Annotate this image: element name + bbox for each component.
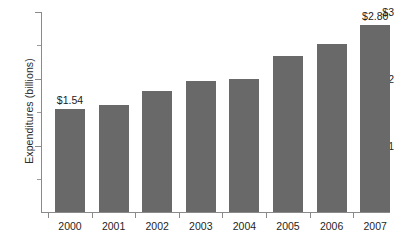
bar-2004[interactable]: [229, 79, 259, 212]
x-axis-tick: [179, 213, 180, 218]
x-axis-tick-label-2003: 2003: [189, 220, 212, 232]
x-axis-tick-label-2007: 2007: [364, 220, 387, 232]
bar-2007[interactable]: [360, 25, 390, 213]
y-axis-major-tick: [35, 79, 41, 80]
y-axis-minor-tick: [37, 45, 41, 46]
x-axis-tick: [310, 213, 311, 218]
x-axis-tick: [92, 213, 93, 218]
x-axis-tick: [48, 213, 49, 218]
x-axis-tick-label-2004: 2004: [233, 220, 256, 232]
x-axis-tick: [222, 213, 223, 218]
y-axis-major-tick: [35, 146, 41, 147]
bar-chart: Expenditures (billions) $1$2$3$1.5420002…: [0, 0, 394, 245]
y-axis-minor-tick: [37, 112, 41, 113]
bar-2006[interactable]: [317, 44, 347, 212]
bar-value-label-2000: $1.54: [57, 94, 83, 106]
x-axis-tick-label-2000: 2000: [58, 220, 81, 232]
y-axis-minor-tick: [37, 179, 41, 180]
bar-2002[interactable]: [142, 91, 172, 212]
bar-2003[interactable]: [186, 81, 216, 212]
bar-2001[interactable]: [99, 105, 129, 212]
x-axis-tick-label-2005: 2005: [276, 220, 299, 232]
bar-2000[interactable]: [55, 109, 85, 212]
x-axis-tick-label-2001: 2001: [102, 220, 125, 232]
y-axis-major-tick: [35, 12, 41, 13]
x-axis-tick-label-2006: 2006: [320, 220, 343, 232]
y-axis-title: Expenditures (billions): [23, 31, 35, 191]
x-axis-tick: [353, 213, 354, 218]
bar-value-label-2007: $2.80: [362, 10, 388, 22]
x-axis-tick: [266, 213, 267, 218]
x-axis-tick: [135, 213, 136, 218]
bar-2005[interactable]: [273, 56, 303, 213]
x-axis-tick-label-2002: 2002: [146, 220, 169, 232]
